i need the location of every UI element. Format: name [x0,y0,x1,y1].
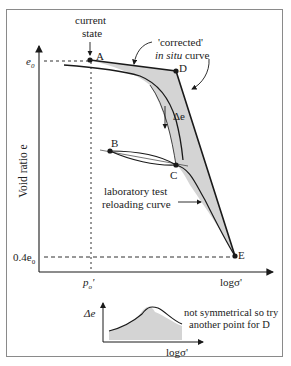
point-c [173,162,178,167]
e04-sub: 0 [32,258,36,266]
point-c-label: C [170,169,177,181]
point-a [87,57,92,62]
curve-text: curve [182,49,209,61]
in-situ-text: in situ [155,49,182,61]
point-d-label: D [179,62,187,74]
x-axis-label: logσ' [220,276,242,288]
lab-curve-label-1: laboratory test [104,185,167,197]
corrected-label-2: in situ curve [155,49,209,61]
e0-label: e0 [26,55,34,72]
current-state-label-1: current [75,14,106,26]
e04-label: 0.4e0 [13,251,35,268]
corrected-arrow-1 [134,42,152,64]
inset-x-label: logσ' [166,346,188,358]
inset-y-text: Δe [84,307,95,319]
e0-sub: 0 [31,62,35,70]
p0-prime: ' [92,276,94,288]
note-label-1: not symmetrical so try [184,307,278,319]
current-state-label-2: state [82,27,102,39]
e04-text: 0.4e [13,251,32,263]
delta-e-label: Δe [173,110,185,122]
inset-shaded-area [109,307,182,340]
lab-curve-label-2: reloading curve [102,198,171,210]
point-b-label: B [111,137,118,149]
point-a-label: A [96,50,104,62]
corrected-label-1: 'corrected' [158,36,203,48]
point-e [232,253,237,258]
point-e-label: E [238,249,245,261]
point-d [173,68,178,73]
corrected-arrow-2 [192,59,209,89]
y-axis-label: Void ratio e [17,144,29,197]
note-label-2: another point for D [189,319,270,331]
p0-label: po' [83,276,94,293]
point-b [107,148,112,153]
inset-y-label: Δe [84,307,95,319]
